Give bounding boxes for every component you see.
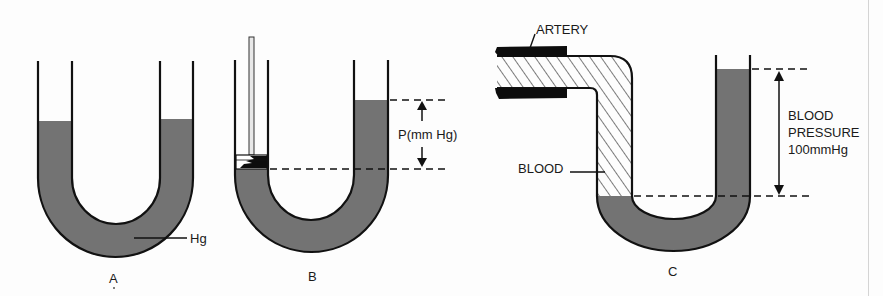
panel-b-arrow-up-icon (417, 101, 427, 121)
page-edge-divider (868, 0, 869, 296)
panel-a-mercury (38, 119, 193, 257)
panel-b: P(mm Hg) B (235, 37, 457, 284)
panel-c: ARTERY BLOOD BLOOD PRESSURE 100mmHg C (495, 22, 860, 279)
panel-c-artery-leader (530, 34, 535, 48)
panel-c-pressure-line2: PRESSURE (788, 125, 860, 140)
panel-c-artery-bottom (495, 88, 567, 99)
panel-c-artery-label: ARTERY (536, 22, 589, 37)
panel-c-pressure-line1: BLOOD (788, 108, 834, 123)
panel-b-caption: B (308, 269, 317, 284)
panel-b-piston-head (236, 155, 267, 169)
panel-c-pressure-line3: 100mmHg (788, 142, 848, 157)
panel-c-double-arrow-icon (774, 71, 784, 195)
panel-c-blood-label: BLOOD (518, 161, 564, 176)
panel-b-pressure-label: P(mm Hg) (398, 127, 457, 142)
panel-c-artery-top (495, 46, 567, 57)
panel-c-caption: C (668, 264, 677, 279)
panel-b-tube-inner (268, 60, 354, 220)
panel-a-tube-inner (72, 61, 160, 224)
panel-a-caption: A (109, 271, 118, 286)
panel-b-arrow-down-icon (417, 147, 427, 167)
diagram-canvas: Hg A (0, 0, 883, 296)
panel-b-piston-rod (249, 37, 254, 155)
panel-a-dot (113, 287, 115, 289)
panel-a: Hg A (38, 61, 207, 289)
manometer-diagram: Hg A (0, 0, 883, 296)
panel-a-hg-label: Hg (190, 231, 207, 246)
